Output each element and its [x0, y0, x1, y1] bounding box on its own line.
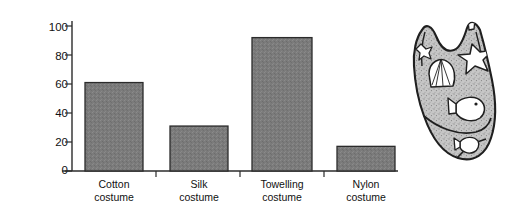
- x-axis-ticks: [156, 171, 324, 177]
- x-category-label-nylon-line1: Nylon: [336, 178, 396, 191]
- bar-silk: [170, 126, 228, 171]
- x-category-label-nylon-line2: costume: [336, 191, 396, 204]
- x-category-label-towelling-line1: Towelling: [250, 178, 314, 191]
- x-category-label-silk: Silk costume: [169, 178, 229, 203]
- x-category-label-towelling-line2: costume: [250, 191, 314, 204]
- swimming-costume-illustration: [398, 8, 513, 188]
- bar-chart-figure: Drying time in minutes 0 20 40 60 80 100: [0, 0, 513, 221]
- x-category-label-cotton-line1: Cotton: [84, 178, 144, 191]
- strap-tab-motif: [468, 19, 475, 30]
- x-category-label-nylon: Nylon costume: [336, 178, 396, 203]
- bar-towelling: [252, 38, 312, 171]
- x-category-label-silk-line1: Silk: [169, 178, 229, 191]
- x-category-label-silk-line2: costume: [169, 191, 229, 204]
- x-category-label-towelling: Towelling costume: [250, 178, 314, 203]
- x-category-label-cotton-line2: costume: [84, 191, 144, 204]
- x-category-label-cotton: Cotton costume: [84, 178, 144, 203]
- y-axis-ticks: [65, 26, 72, 171]
- bar-nylon: [337, 146, 395, 171]
- bar-cotton: [85, 83, 143, 171]
- chart-region: Drying time in minutes 0 20 40 60 80 100: [0, 0, 400, 221]
